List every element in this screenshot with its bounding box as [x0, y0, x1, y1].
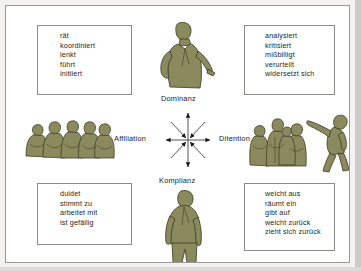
scan-edge-bottom	[0, 267, 361, 271]
man-slouching-figure	[158, 188, 212, 263]
wordbox-detention-item: mißbilligt	[245, 50, 334, 60]
wordbox-dominanz-item: rät	[38, 31, 131, 41]
wordbox-detention-item: analysiert	[245, 31, 334, 41]
wordbox-dominanz-item: führt	[38, 60, 131, 70]
axis-label-komplianz: Komplianz	[159, 176, 195, 185]
wordbox-dominanz-item: initiiert	[38, 69, 131, 79]
wordbox-weicht-item: räumt ein	[245, 199, 334, 209]
scan-edge-right	[355, 0, 361, 271]
wordbox-detention-item: kritisiert	[245, 41, 334, 51]
scanned-page: rät koordiniert lenkt führt initiiert an…	[0, 0, 361, 271]
wordbox-komplianz-item: stimmt zu	[38, 199, 131, 209]
wordbox-weicht-item: zieht sich zurück	[245, 227, 334, 237]
wordbox-komplianz: duldet stimmt zu arbeitet mit ist gefäll…	[37, 183, 132, 245]
wordbox-dominanz: rät koordiniert lenkt führt initiiert	[37, 25, 132, 95]
wordbox-weicht-item: weicht aus	[245, 189, 334, 199]
man-walking-away-arm-raised-figure	[306, 111, 350, 173]
man-hand-on-hip-pointing-figure	[152, 20, 218, 94]
axis-label-ditention: Ditention	[219, 134, 250, 143]
wordbox-dominanz-item: koordiniert	[38, 41, 131, 51]
eight-pointed-arrow-star-icon	[164, 109, 212, 171]
wordbox-weicht-item: weicht zurück	[245, 218, 334, 228]
group-of-five-people-figure	[25, 113, 115, 167]
wordbox-komplianz-item: duldet	[38, 189, 131, 199]
wordbox-weicht: weicht aus räumt ein gibt auf weicht zur…	[244, 183, 335, 251]
wordbox-detention: analysiert kritisiert mißbilligt verurte…	[244, 25, 335, 95]
axis-label-affiliation: Affiliation	[114, 134, 146, 143]
wordbox-dominanz-item: lenkt	[38, 50, 131, 60]
wordbox-weicht-item: gibt auf	[245, 208, 334, 218]
wordbox-komplianz-item: ist gefällig	[38, 218, 131, 228]
group-of-people-figure	[249, 113, 311, 171]
wordbox-detention-item: widersetzt sich	[245, 69, 334, 79]
diagram-panel: rät koordiniert lenkt führt initiiert an…	[5, 5, 350, 263]
wordbox-komplianz-item: arbeitet mit	[38, 208, 131, 218]
wordbox-detention-item: verurteilt	[245, 60, 334, 70]
axis-label-dominanz: Dominanz	[161, 94, 196, 103]
